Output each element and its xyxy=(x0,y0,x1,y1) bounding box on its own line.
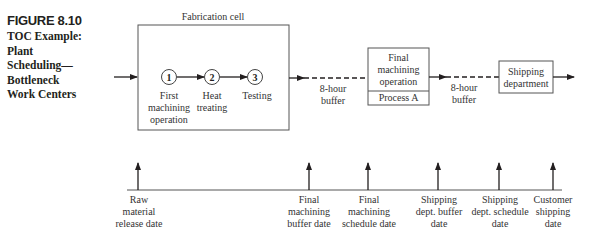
svg-text:date: date xyxy=(431,218,448,229)
svg-text:operation: operation xyxy=(380,76,418,87)
svg-text:department: department xyxy=(504,78,549,89)
svg-text:machining: machining xyxy=(377,64,419,75)
marker-customer-shipping: Customer shipping date xyxy=(534,163,574,229)
fabrication-cell-label: Fabrication cell xyxy=(182,11,245,22)
shipping-department-box: Shipping department xyxy=(499,61,553,93)
svg-text:8-hour: 8-hour xyxy=(320,83,347,94)
step-1: 1 First machining operation xyxy=(148,70,190,126)
svg-text:buffer date: buffer date xyxy=(287,218,331,229)
buffer1-label: 8-hour buffer xyxy=(320,83,347,106)
toc-diagram: Fabrication cell 1 First machining opera… xyxy=(0,0,594,242)
marker-raw-material-release: Raw material release date xyxy=(116,163,163,229)
svg-text:2: 2 xyxy=(210,72,215,83)
marker-final-machining-buffer: Final machining buffer date xyxy=(287,163,331,229)
svg-text:Customer: Customer xyxy=(534,194,574,205)
svg-text:schedule date: schedule date xyxy=(342,218,397,229)
svg-text:release date: release date xyxy=(116,218,163,229)
svg-text:date: date xyxy=(545,218,562,229)
svg-text:Raw: Raw xyxy=(130,194,149,205)
svg-text:machining: machining xyxy=(288,206,330,217)
svg-text:dept. schedule: dept. schedule xyxy=(471,206,529,217)
svg-text:material: material xyxy=(123,206,156,217)
svg-text:treating: treating xyxy=(197,102,228,113)
svg-text:date: date xyxy=(492,218,509,229)
svg-text:machining: machining xyxy=(348,206,390,217)
step-3: 3 Testing xyxy=(242,70,271,102)
svg-text:operation: operation xyxy=(150,114,188,125)
svg-text:Shipping: Shipping xyxy=(421,194,457,205)
final-machining-box: Final machining operation Process A xyxy=(368,48,429,105)
svg-text:machining: machining xyxy=(148,102,190,113)
svg-text:buffer: buffer xyxy=(321,95,346,106)
svg-text:First: First xyxy=(160,90,179,101)
marker-shipping-dept-schedule: Shipping dept. schedule date xyxy=(471,163,529,229)
svg-text:dept. buffer: dept. buffer xyxy=(416,206,463,217)
svg-text:shipping: shipping xyxy=(536,206,570,217)
buffer2-label: 8-hour buffer xyxy=(451,82,478,105)
svg-text:Final: Final xyxy=(299,194,320,205)
svg-text:buffer: buffer xyxy=(452,94,477,105)
svg-text:Final: Final xyxy=(388,52,409,63)
svg-text:Heat: Heat xyxy=(203,90,222,101)
svg-text:Testing: Testing xyxy=(242,90,271,101)
step-2: 2 Heat treating xyxy=(197,70,228,114)
svg-text:Shipping: Shipping xyxy=(508,66,544,77)
svg-text:3: 3 xyxy=(253,72,258,83)
process-a-label: Process A xyxy=(379,92,420,103)
svg-text:Final: Final xyxy=(359,194,380,205)
svg-text:1: 1 xyxy=(167,72,172,83)
marker-final-machining-schedule: Final machining schedule date xyxy=(342,163,397,229)
svg-text:8-hour: 8-hour xyxy=(451,82,478,93)
svg-text:Shipping: Shipping xyxy=(482,194,518,205)
marker-shipping-dept-buffer: Shipping dept. buffer date xyxy=(416,163,463,229)
